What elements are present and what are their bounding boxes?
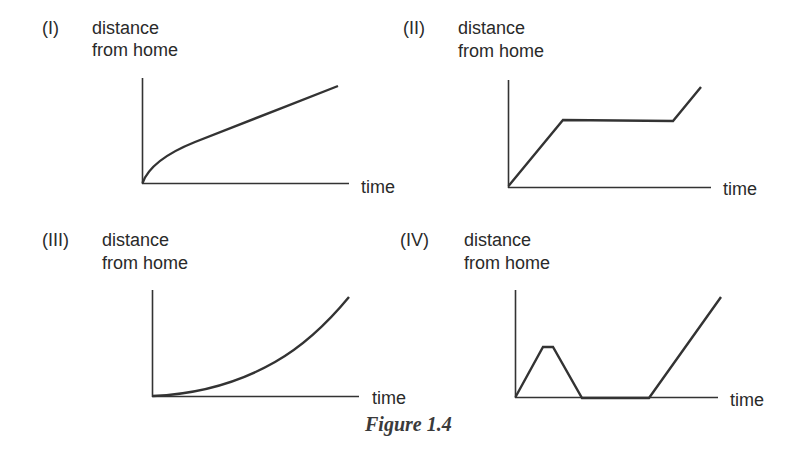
graph-4-line: [516, 297, 722, 398]
graph-4: [515, 290, 721, 398]
graphs-canvas: [0, 0, 797, 451]
figure-caption: Figure 1.4: [365, 413, 452, 436]
graph-2: [508, 80, 711, 188]
graph-1-curve: [143, 86, 339, 183]
graph-1: [142, 78, 349, 184]
graph-3-curve: [153, 297, 350, 396]
graph-3: [152, 290, 359, 397]
graph-2-line: [509, 87, 702, 186]
